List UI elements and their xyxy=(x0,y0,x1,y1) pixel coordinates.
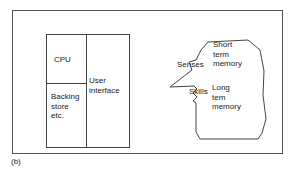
computer-vertical-divider xyxy=(86,35,87,147)
backing-store-cell-label: Backing store etc. xyxy=(51,92,79,121)
short-term-memory-label: Short term memory xyxy=(213,40,242,69)
long-term-memory-label: Long tem memory xyxy=(212,83,241,112)
figure-caption: (b) xyxy=(11,156,21,167)
computer-horizontal-divider xyxy=(47,83,86,84)
user-interface-cell-label: User interface xyxy=(89,76,120,95)
figure-container: CPU Backing store etc. User interface Se… xyxy=(0,0,295,171)
computer-block-diagram: CPU Backing store etc. User interface xyxy=(46,34,130,148)
human-head-diagram: Senses Skills Short term memory Long tem… xyxy=(163,29,288,149)
cpu-cell-label: CPU xyxy=(54,55,71,65)
figure-frame: CPU Backing store etc. User interface Se… xyxy=(12,10,283,154)
senses-label: Senses xyxy=(177,60,204,70)
skills-label: Skills xyxy=(189,87,208,97)
